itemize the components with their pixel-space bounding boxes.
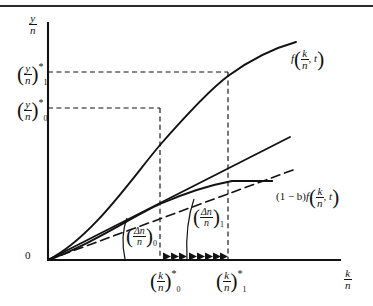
x-tick-0-subscript: 0 (177, 286, 181, 294)
y-axis-tick-label-1: (yn)*1 (17, 63, 48, 86)
y-tick-0-star: * (39, 98, 44, 108)
paren-close: ) (146, 228, 153, 246)
y-axis-tick-label-0: (yn)*0 (17, 99, 48, 122)
paren-open: ( (17, 102, 24, 120)
paren-open: ( (126, 228, 133, 246)
curve-label-fb-comma: , (324, 190, 327, 202)
plot-area (0, 0, 373, 306)
paren-open: ( (309, 189, 316, 207)
paren-close: ) (231, 273, 238, 291)
paren-close: ) (332, 189, 339, 207)
paren-open: ( (294, 51, 301, 69)
x-tick-1-denominator: n (223, 282, 231, 293)
paren-close: ) (32, 102, 39, 120)
paren-close: ) (317, 51, 324, 69)
x-axis-title-denominator: n (344, 280, 352, 291)
ray-population-growth-low (48, 170, 293, 260)
figure-container: y n k n 0 (yn)*1 (yn)*0 (kn)*0 (kn)*1 f(… (0, 0, 373, 306)
curve-label-saving-function: (1 − b)f(kn, t) (276, 186, 339, 209)
x-axis-title: k n (344, 268, 352, 291)
y-axis-title: y n (29, 13, 37, 36)
x-tick-1-subscript: 1 (243, 286, 247, 294)
curve-label-f-comma: , (309, 52, 312, 64)
angle-label-1-denominator: n (200, 218, 213, 228)
curve-label-f-denominator: n (301, 60, 309, 71)
angle-label-population-growth-0: (Δnn)0 (126, 226, 157, 247)
y-tick-0-subscript: 0 (44, 115, 48, 123)
x-tick-1-star: * (238, 269, 243, 279)
x-tick-0-denominator: n (157, 282, 165, 293)
curve-production-function (48, 42, 296, 260)
angle-label-1-subscript: 1 (220, 221, 224, 229)
paren-close: ) (165, 273, 172, 291)
x-axis-tick-label-1: (kn)*1 (216, 270, 247, 293)
paren-open: ( (193, 209, 200, 227)
y-tick-1-subscript: 1 (44, 79, 48, 87)
y-tick-0-denominator: n (24, 111, 32, 122)
origin-label: 0 (25, 250, 31, 261)
y-axis-title-denominator: n (29, 25, 37, 36)
paren-open: ( (216, 273, 223, 291)
angle-label-0-denominator: n (133, 237, 146, 247)
x-tick-0-star: * (172, 269, 177, 279)
paren-open: ( (150, 273, 157, 291)
paren-close: ) (32, 66, 39, 84)
curve-label-fb-denominator: n (316, 198, 324, 209)
ray-population-growth-high (48, 137, 290, 260)
curve-label-production-function: f(kn, t) (291, 48, 324, 71)
y-tick-1-denominator: n (24, 75, 32, 86)
paren-close: ) (213, 209, 220, 227)
angle-label-0-subscript: 0 (153, 240, 157, 248)
x-axis-tick-label-0: (kn)*0 (150, 270, 181, 293)
paren-open: ( (17, 66, 24, 84)
y-tick-1-star: * (39, 62, 44, 72)
angle-label-population-growth-1: (Δnn)1 (193, 207, 224, 228)
curve-label-fb-prefix: (1 − b) (276, 190, 306, 202)
